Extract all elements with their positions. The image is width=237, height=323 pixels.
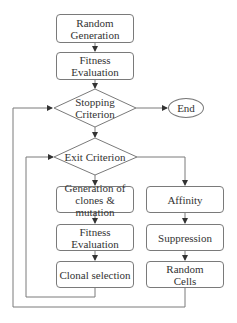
suppression-label: Suppression: [158, 232, 212, 244]
stopping-criterion-label: Stopping Criterion: [67, 95, 123, 120]
exit-criterion-label: Exit Criterion: [58, 150, 132, 164]
end-label: End: [177, 102, 195, 114]
random-generation-node: Random Generation: [56, 14, 134, 43]
fitness-evaluation-label-1: Fitness Evaluation: [65, 54, 125, 78]
fitness-evaluation-node-1: Fitness Evaluation: [56, 52, 134, 80]
random-cells-label: Random Cells: [160, 263, 210, 287]
end-node: End: [168, 98, 204, 118]
affinity-node: Affinity: [146, 186, 224, 213]
suppression-node: Suppression: [146, 224, 224, 251]
fitness-evaluation-label-2: Fitness Evaluation: [65, 226, 125, 250]
clonal-selection-node: Clonal selection: [56, 261, 134, 288]
random-generation-label: Random Generation: [65, 17, 125, 41]
clonal-selection-label: Clonal selection: [59, 269, 130, 281]
affinity-label: Affinity: [167, 194, 202, 206]
random-cells-node: Random Cells: [146, 261, 224, 288]
generation-clones-node: Generation of clones & mutation: [56, 186, 134, 213]
generation-clones-label: Generation of clones & mutation: [57, 182, 133, 218]
fitness-evaluation-node-2: Fitness Evaluation: [56, 224, 134, 251]
